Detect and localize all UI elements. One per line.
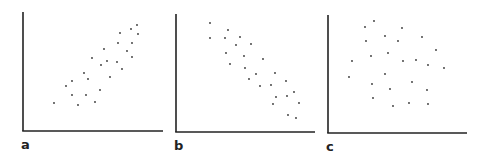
data-point	[126, 50, 128, 52]
data-point	[225, 52, 227, 54]
data-point	[370, 55, 372, 57]
data-point	[87, 78, 89, 80]
data-point	[229, 63, 231, 65]
data-point	[384, 35, 386, 37]
data-point	[53, 102, 55, 104]
scatter-panel-a	[22, 12, 163, 131]
panel-label-a: a	[21, 138, 30, 151]
data-point	[286, 95, 288, 97]
data-point	[408, 102, 410, 104]
data-point	[272, 103, 274, 105]
data-point	[71, 94, 73, 96]
data-point	[397, 40, 399, 42]
data-point	[443, 67, 445, 69]
data-point	[351, 60, 353, 62]
data-point	[373, 20, 375, 22]
data-point	[365, 40, 367, 42]
data-point	[85, 94, 87, 96]
data-point	[106, 60, 108, 62]
data-point	[130, 28, 132, 30]
data-point	[270, 84, 272, 86]
data-point	[387, 52, 389, 54]
data-point	[250, 43, 252, 45]
data-point	[117, 42, 119, 44]
data-point	[94, 101, 96, 103]
data-point	[426, 89, 428, 91]
data-point	[83, 72, 85, 74]
data-point	[262, 58, 264, 60]
data-point	[421, 36, 423, 38]
scatter-panel-b	[175, 14, 315, 132]
data-point	[65, 85, 67, 87]
data-point	[227, 29, 229, 31]
scatter-panel-c	[327, 15, 467, 133]
data-point	[209, 22, 211, 24]
data-point	[103, 48, 105, 50]
data-point	[298, 102, 300, 104]
data-point	[415, 59, 417, 61]
data-point	[100, 64, 102, 66]
data-point	[99, 89, 101, 91]
data-point	[274, 72, 276, 74]
data-point	[71, 80, 73, 82]
data-point	[295, 117, 297, 119]
data-point	[259, 85, 261, 87]
data-point	[244, 67, 246, 69]
data-point	[389, 88, 391, 90]
data-point	[371, 83, 373, 85]
data-point	[427, 64, 429, 66]
data-point	[239, 36, 241, 38]
data-point	[287, 114, 289, 116]
data-point	[136, 24, 138, 26]
panel-label-b: b	[174, 139, 183, 152]
data-point	[411, 81, 413, 83]
data-point	[137, 33, 139, 35]
data-point	[392, 105, 394, 107]
data-point	[364, 26, 366, 28]
data-point	[91, 57, 93, 59]
panel-label-c: c	[326, 140, 334, 153]
data-point	[243, 55, 245, 57]
data-point	[131, 42, 133, 44]
data-point	[235, 44, 237, 46]
data-point	[109, 76, 111, 78]
data-point	[427, 103, 429, 105]
data-point	[401, 27, 403, 29]
data-point	[275, 96, 277, 98]
data-point	[372, 97, 374, 99]
data-point	[435, 49, 437, 51]
data-point	[248, 78, 250, 80]
data-point	[119, 32, 121, 34]
data-point	[224, 37, 226, 39]
data-point	[116, 61, 118, 63]
data-point	[348, 76, 350, 78]
data-point	[384, 73, 386, 75]
data-point	[255, 73, 257, 75]
scatter-plots-figure	[0, 0, 487, 165]
data-point	[285, 80, 287, 82]
data-point	[121, 68, 123, 70]
data-point	[131, 56, 133, 58]
data-point	[77, 104, 79, 106]
data-point	[293, 91, 295, 93]
data-point	[402, 60, 404, 62]
data-point	[209, 37, 211, 39]
